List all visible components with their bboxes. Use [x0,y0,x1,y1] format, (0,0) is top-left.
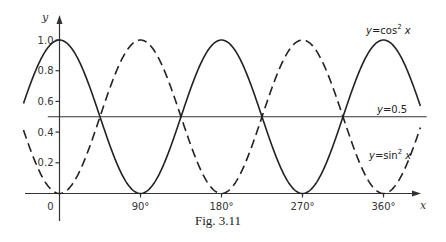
sin-squared-annotation: y=sin2 x [368,148,411,161]
y-axis-label: y [41,11,49,24]
axes [25,15,421,221]
cos-annotation-x: x [402,25,411,36]
y-axis-arrow-icon [57,15,63,24]
cos-sin-squared-chart: 090°180°270°360°0.20.40.60.81.0 y x y=co… [0,0,446,242]
x-tick-label: 0 [47,201,53,212]
series-group [24,40,427,194]
x-tick-label: 360° [371,201,395,212]
y-tick-label: 0.2 [38,157,54,168]
cos-squared-annotation: y=cos2 x [365,23,411,36]
x-tick-label: 270° [290,201,314,212]
figure-caption: Fig. 3.11 [195,213,241,228]
half-line-annotation: y=0.5 [376,104,407,115]
y-tick-label: 0.8 [38,65,54,76]
x-axis-arrow-icon [412,191,421,197]
y-tick-label: 0.4 [38,127,54,138]
x-tick-label: 90° [132,201,150,212]
sin-annotation-x: x [402,150,411,161]
tick-labels: 090°180°270°360°0.20.40.60.81.0 [38,35,396,213]
y-tick-label: 0.6 [38,96,54,107]
tick-marks [56,40,384,198]
x-tick-label: 180° [209,201,233,212]
x-axis-label: x [420,199,427,212]
sin-annotation-func: =sin [375,150,398,161]
half-annotation-value: =0.5 [383,104,407,115]
cos-annotation-func: =cos [372,25,397,36]
